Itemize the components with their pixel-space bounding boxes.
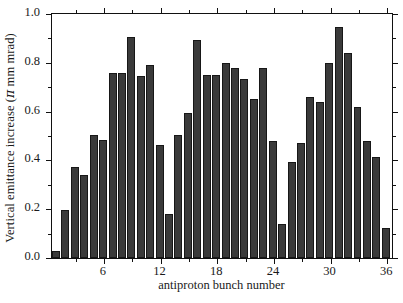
x-axis-tick-label: 36 (373, 264, 399, 279)
bar (344, 53, 352, 258)
y-axis-minor-tick-right (392, 185, 396, 186)
x-axis-minor-tick-top (246, 10, 247, 14)
y-axis-minor-tick (48, 136, 52, 137)
bar (316, 102, 324, 258)
bar (146, 65, 154, 258)
bar (109, 73, 117, 258)
x-axis-minor-tick (189, 258, 190, 262)
bar (99, 140, 107, 258)
x-axis-tick-label: 24 (260, 264, 286, 279)
x-axis-tick-top (274, 8, 275, 14)
y-axis-minor-tick-right (392, 136, 396, 137)
bar (90, 135, 98, 258)
y-axis-tick (46, 258, 52, 259)
bar (118, 73, 126, 258)
bar (288, 162, 296, 258)
x-axis-minor-tick-top (76, 10, 77, 14)
x-axis-tick-top (104, 8, 105, 14)
y-axis-label-before: Vertical emittance increase ( (3, 98, 17, 243)
bar (240, 79, 248, 258)
bar-chart-figure: Vertical emittance increase (π mm mrad) … (0, 0, 403, 303)
x-axis-minor-tick-top (359, 10, 360, 14)
y-axis-tick (46, 209, 52, 210)
x-axis-minor-tick (132, 258, 133, 262)
y-axis-tick-right (392, 14, 398, 15)
bar (335, 27, 343, 258)
bar (80, 175, 88, 258)
bar (269, 141, 277, 258)
x-axis-tick-label: 30 (317, 264, 343, 279)
bar (156, 145, 164, 258)
y-axis-minor-tick (48, 185, 52, 186)
bar-series (52, 14, 392, 258)
bar (127, 37, 135, 258)
y-axis-tick-right (392, 258, 398, 259)
bar (297, 143, 305, 258)
y-axis-minor-tick-right (392, 38, 396, 39)
bar (61, 210, 69, 258)
bar (382, 228, 390, 259)
x-axis-minor-tick (76, 258, 77, 262)
bar (193, 40, 201, 258)
y-axis-label: Vertical emittance increase (π mm mrad) (2, 8, 20, 268)
bar (137, 76, 145, 258)
bar (259, 68, 267, 258)
y-axis-minor-tick-right (392, 234, 396, 235)
x-axis-tick-label: 12 (147, 264, 173, 279)
plot-area (51, 13, 393, 259)
y-axis-minor-tick-right (392, 87, 396, 88)
y-axis-tick-label: 0.4 (0, 151, 40, 166)
x-axis-tick-label: 18 (203, 264, 229, 279)
x-axis-tick-label: 6 (90, 264, 116, 279)
bar (306, 97, 314, 258)
bar (184, 113, 192, 258)
y-axis-tick (46, 112, 52, 113)
bar (71, 167, 79, 259)
y-axis-tick-right (392, 160, 398, 161)
x-axis-minor-tick-top (302, 10, 303, 14)
x-axis-minor-tick-top (189, 10, 190, 14)
bar (250, 99, 258, 258)
bar (363, 141, 371, 258)
bar (212, 75, 220, 258)
bar (52, 251, 60, 258)
x-axis-tick-top (161, 8, 162, 14)
x-axis-minor-tick (246, 258, 247, 262)
bar (231, 68, 239, 258)
x-axis-minor-tick (302, 258, 303, 262)
x-axis-minor-tick-top (132, 10, 133, 14)
bar (354, 107, 362, 258)
y-axis-tick-label: 0.8 (0, 54, 40, 69)
bar (372, 157, 380, 258)
bar (278, 224, 286, 258)
y-axis-tick-right (392, 112, 398, 113)
y-axis-tick (46, 160, 52, 161)
bar (174, 135, 182, 258)
y-axis-tick-label: 0.2 (0, 200, 40, 215)
y-axis-tick-label: 0.0 (0, 249, 40, 264)
x-axis-tick-top (331, 8, 332, 14)
y-axis-tick-label: 1.0 (0, 5, 40, 20)
y-axis-minor-tick (48, 38, 52, 39)
bar (325, 63, 333, 258)
bar (222, 63, 230, 258)
pi-symbol: π (2, 90, 17, 98)
y-axis-minor-tick (48, 87, 52, 88)
bar (165, 214, 173, 258)
x-axis-label: antiproton bunch number (51, 278, 392, 293)
y-axis-tick-right (392, 209, 398, 210)
x-axis-tick-top (217, 8, 218, 14)
x-axis-minor-tick (359, 258, 360, 262)
y-axis-minor-tick (48, 234, 52, 235)
y-axis-tick (46, 63, 52, 64)
x-axis-tick-top (387, 8, 388, 14)
y-axis-tick-right (392, 63, 398, 64)
bar (203, 75, 211, 258)
y-axis-tick-label: 0.6 (0, 103, 40, 118)
y-axis-tick (46, 14, 52, 15)
